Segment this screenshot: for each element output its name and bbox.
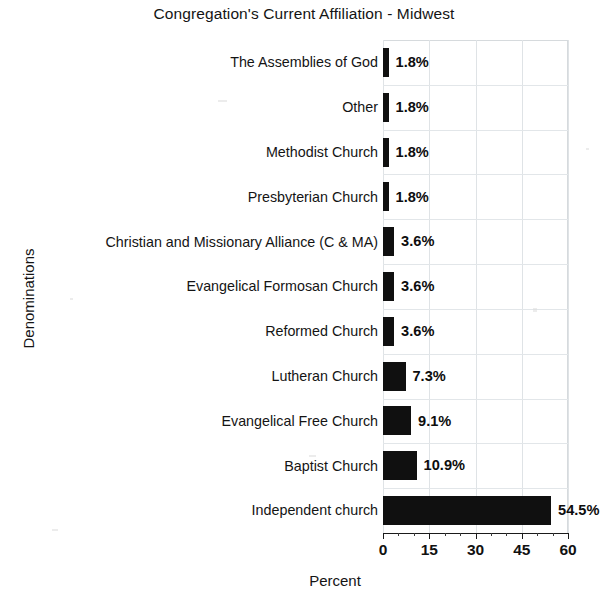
x-tick-minor bbox=[398, 533, 399, 536]
bar-value-label: 1.8% bbox=[396, 40, 429, 85]
bar-value-text: 1.8% bbox=[396, 145, 429, 160]
bar bbox=[383, 93, 389, 122]
bar-row: Baptist Church10.9% bbox=[0, 443, 610, 488]
bar-value-label: 3.6% bbox=[401, 264, 434, 309]
x-tick-minor bbox=[506, 533, 507, 536]
bar-row: Christian and Missionary Alliance (C & M… bbox=[0, 219, 610, 264]
bar-value-text: 1.8% bbox=[396, 100, 429, 115]
bar-row: Other1.8% bbox=[0, 85, 610, 130]
category-label: Baptist Church bbox=[0, 443, 378, 488]
bar-row: Independent church54.5% bbox=[0, 488, 610, 533]
category-label: Evangelical Formosan Church bbox=[0, 264, 378, 309]
category-label-text: Lutheran Church bbox=[271, 369, 378, 383]
bar-value-text: 7.3% bbox=[413, 369, 446, 384]
bar-value-text: 9.1% bbox=[418, 414, 451, 429]
category-label: Presbyterian Church bbox=[0, 174, 378, 219]
scan-speckle bbox=[586, 148, 589, 150]
scan-speckle bbox=[533, 308, 537, 312]
chart-title: Congregation's Current Affiliation - Mid… bbox=[0, 5, 610, 23]
scan-speckle bbox=[70, 298, 73, 300]
category-label-text: The Assemblies of God bbox=[230, 55, 378, 69]
bar-value-label: 10.9% bbox=[424, 443, 465, 488]
bar-row: Methodist Church1.8% bbox=[0, 130, 610, 175]
category-label: Methodist Church bbox=[0, 130, 378, 175]
x-tick-major bbox=[568, 533, 569, 539]
bar-value-text: 10.9% bbox=[424, 458, 465, 473]
category-label: Christian and Missionary Alliance (C & M… bbox=[0, 219, 378, 264]
category-label: Reformed Church bbox=[0, 309, 378, 354]
bar-value-label: 9.1% bbox=[418, 399, 451, 444]
bar-value-text: 3.6% bbox=[401, 279, 434, 294]
x-tick-label: 30 bbox=[456, 541, 496, 559]
x-tick-major bbox=[476, 533, 477, 539]
bar bbox=[383, 272, 394, 301]
scan-speckle bbox=[52, 529, 58, 531]
bar-value-text: 3.6% bbox=[401, 234, 434, 249]
bar-value-text: 1.8% bbox=[396, 55, 429, 70]
x-tick-major bbox=[383, 533, 384, 539]
bar-value-text: 54.5% bbox=[558, 503, 599, 518]
bar-row: Evangelical Formosan Church3.6% bbox=[0, 264, 610, 309]
bar-row: Lutheran Church7.3% bbox=[0, 354, 610, 399]
x-tick-major bbox=[429, 533, 430, 539]
bar-value-text: 1.8% bbox=[396, 190, 429, 205]
bar-row: Presbyterian Church1.8% bbox=[0, 174, 610, 219]
category-label: The Assemblies of God bbox=[0, 40, 378, 85]
bar bbox=[383, 138, 389, 167]
bar-row: Evangelical Free Church9.1% bbox=[0, 399, 610, 444]
bar-chart-figure: Congregation's Current Affiliation - Mid… bbox=[0, 0, 610, 602]
bar-value-label: 54.5% bbox=[558, 488, 599, 533]
bar bbox=[383, 227, 394, 256]
x-tick-minor bbox=[414, 533, 415, 536]
category-label-text: Independent church bbox=[252, 503, 378, 517]
scan-speckle bbox=[218, 100, 227, 102]
bar-value-label: 1.8% bbox=[396, 85, 429, 130]
category-label-text: Other bbox=[342, 100, 378, 114]
category-label-text: Methodist Church bbox=[266, 145, 378, 159]
bar bbox=[383, 362, 406, 391]
x-tick-minor bbox=[445, 533, 446, 536]
category-label: Lutheran Church bbox=[0, 354, 378, 399]
category-label-text: Reformed Church bbox=[265, 324, 378, 338]
bar-value-label: 3.6% bbox=[401, 219, 434, 264]
bar bbox=[383, 317, 394, 346]
bar-value-label: 1.8% bbox=[396, 174, 429, 219]
category-label-text: Christian and Missionary Alliance (C & M… bbox=[105, 235, 378, 249]
x-axis-title: Percent bbox=[275, 572, 395, 589]
bar-value-text: 3.6% bbox=[401, 324, 434, 339]
category-label-text: Presbyterian Church bbox=[248, 190, 378, 204]
chart-title-text: Congregation's Current Affiliation - Mid… bbox=[154, 5, 455, 23]
bar-value-label: 1.8% bbox=[396, 130, 429, 175]
bar bbox=[383, 406, 411, 435]
bar-row: Reformed Church3.6% bbox=[0, 309, 610, 354]
x-tick-minor bbox=[553, 533, 554, 536]
x-tick-label: 15 bbox=[409, 541, 449, 559]
x-tick-minor bbox=[537, 533, 538, 536]
bar-value-label: 7.3% bbox=[413, 354, 446, 399]
x-tick-minor bbox=[460, 533, 461, 536]
category-label-text: Evangelical Formosan Church bbox=[186, 279, 378, 293]
category-label: Evangelical Free Church bbox=[0, 399, 378, 444]
x-tick-label: 60 bbox=[548, 541, 588, 559]
bar bbox=[383, 48, 389, 77]
x-tick-major bbox=[522, 533, 523, 539]
category-label-text: Evangelical Free Church bbox=[221, 414, 378, 428]
bar bbox=[383, 451, 417, 480]
x-tick-label: 0 bbox=[363, 541, 403, 559]
category-label: Independent church bbox=[0, 488, 378, 533]
x-tick-minor bbox=[491, 533, 492, 536]
scan-speckle bbox=[309, 455, 316, 457]
x-tick-label: 45 bbox=[502, 541, 542, 559]
bar bbox=[383, 496, 551, 525]
bar-row: The Assemblies of God1.8% bbox=[0, 40, 610, 85]
category-label-text: Baptist Church bbox=[284, 459, 378, 473]
bar-value-label: 3.6% bbox=[401, 309, 434, 354]
bar bbox=[383, 182, 389, 211]
category-label: Other bbox=[0, 85, 378, 130]
